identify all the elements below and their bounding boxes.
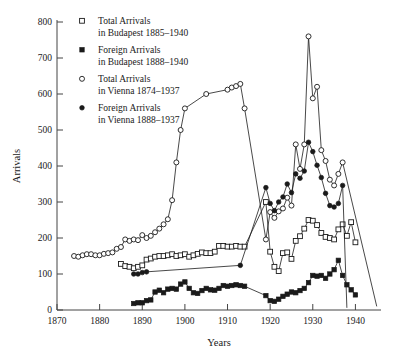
data-point (263, 237, 268, 242)
data-point (268, 249, 273, 254)
data-point (315, 223, 320, 228)
x-tick-label: 1920 (261, 316, 280, 326)
y-tick-label: 200 (38, 233, 53, 243)
legend-item-1[interactable]: Foreign Arrivalsin Budapest 1888–1940 (80, 45, 189, 67)
data-point (306, 280, 310, 284)
data-point (264, 293, 268, 297)
data-point (191, 291, 195, 295)
data-point (311, 273, 315, 277)
data-point (182, 106, 187, 111)
data-point (327, 177, 332, 182)
data-point (345, 283, 349, 287)
data-point (315, 274, 319, 278)
series-1 (132, 258, 358, 306)
data-point (306, 34, 311, 39)
x-tick-label: 1910 (218, 316, 237, 326)
y-tick-label: 100 (38, 269, 53, 279)
data-point (264, 185, 269, 190)
legend-item-0[interactable]: Total Arrivalsin Budapest 1885–1940 (80, 16, 189, 38)
data-point (170, 286, 174, 290)
data-point (110, 250, 115, 255)
data-point (174, 160, 179, 165)
data-point (336, 201, 341, 206)
data-point (238, 263, 243, 268)
data-point (230, 283, 234, 287)
data-point (276, 269, 281, 274)
data-point (289, 203, 294, 208)
data-point (281, 195, 286, 200)
data-point (174, 287, 178, 291)
data-point (276, 297, 280, 301)
data-point (323, 158, 328, 163)
data-point (332, 183, 337, 188)
legend-label-primary: Total Arrivals (98, 74, 151, 84)
x-tick-label: 1870 (48, 316, 67, 326)
data-point (319, 273, 323, 277)
data-point (336, 227, 341, 232)
data-point (302, 286, 306, 290)
data-point (225, 284, 229, 288)
data-point (149, 298, 153, 302)
y-axis-title: Arrivals (11, 149, 22, 183)
data-point (213, 288, 217, 292)
legend-item-3[interactable]: Foreign Arrivalsin Vienna 1888–1937 (80, 103, 180, 125)
data-point (349, 288, 353, 292)
legend-label-secondary: in Budapest 1888–1940 (98, 57, 188, 67)
data-point (272, 208, 277, 213)
legend-marker-open-circle (80, 76, 85, 81)
data-point (332, 205, 337, 210)
data-point (200, 288, 204, 292)
data-point (161, 222, 166, 227)
legend-label-primary: Foreign Arrivals (98, 45, 161, 55)
data-point (166, 287, 170, 291)
series-path (121, 202, 355, 271)
data-point (157, 226, 162, 231)
data-point (280, 206, 285, 211)
data-point (353, 240, 358, 245)
data-point (272, 215, 277, 220)
data-point (161, 291, 165, 295)
data-point (131, 272, 136, 277)
data-point (315, 84, 320, 89)
data-point (294, 291, 298, 295)
legend-label-secondary: in Vienna 1888–1937 (98, 115, 180, 125)
chart-legend: Total Arrivalsin Budapest 1885–1940Forei… (80, 16, 189, 125)
data-point (302, 169, 307, 174)
data-point (272, 299, 276, 303)
data-point (208, 288, 212, 292)
data-point (332, 267, 336, 271)
data-point (242, 106, 247, 111)
data-point (289, 290, 293, 294)
data-point (285, 182, 290, 187)
data-point (332, 237, 337, 242)
data-point (178, 282, 182, 286)
data-point (170, 198, 175, 203)
data-point (323, 276, 327, 280)
data-point (242, 284, 246, 288)
data-point (140, 263, 145, 268)
data-point (349, 220, 354, 225)
y-tick-label: 300 (38, 197, 53, 207)
data-point (144, 270, 149, 275)
data-point (268, 298, 272, 302)
series-0 (119, 200, 358, 274)
legend-marker-open-square (80, 18, 85, 23)
data-point (148, 233, 153, 238)
data-point (153, 290, 157, 294)
y-axis-ticks: 0100200300400500600700800 (38, 17, 63, 315)
y-tick-label: 600 (38, 89, 53, 99)
data-point (315, 163, 320, 168)
legend-item-2[interactable]: Total Arrivalsin Vienna 1874–1937 (80, 74, 180, 96)
data-point (217, 286, 221, 290)
data-point (298, 176, 303, 181)
y-tick-label: 0 (47, 305, 52, 315)
data-point (234, 283, 238, 287)
data-point (268, 201, 273, 206)
data-point (195, 291, 199, 295)
data-point (153, 230, 158, 235)
data-point (178, 128, 183, 133)
x-tick-label: 1880 (90, 316, 109, 326)
x-tick-label: 1890 (133, 316, 152, 326)
data-point (289, 190, 294, 195)
data-point (144, 298, 148, 302)
